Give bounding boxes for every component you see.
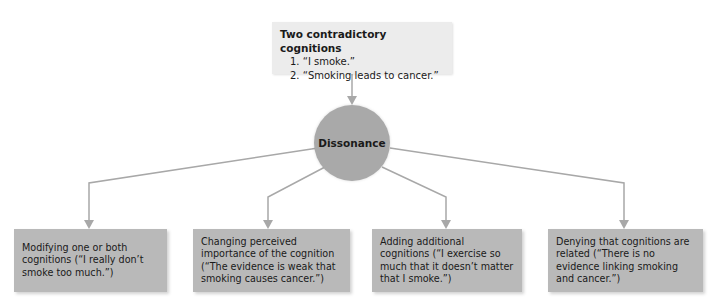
outcome-box-deny: Denying that cognitions are related (“Th… <box>548 229 703 292</box>
dissonance-node: Dissonance <box>314 105 390 181</box>
top-box-title: Two contradictory cognitions <box>280 27 444 55</box>
outcome-text: Modifying one or both cognitions (“I rea… <box>22 242 159 280</box>
dissonance-label: Dissonance <box>318 137 385 149</box>
outcome-box-importance: Changing perceived importance of the cog… <box>193 229 350 292</box>
outcome-text: Denying that cognitions are related (“Th… <box>556 236 695 286</box>
outcome-text: Changing perceived importance of the cog… <box>201 236 342 286</box>
outcome-box-modify: Modifying one or both cognitions (“I rea… <box>14 229 167 292</box>
outcome-box-add: Adding additional cognitions (“I exercis… <box>372 229 522 292</box>
cognition-item-2: 2. “Smoking leads to cancer.” <box>280 69 444 83</box>
cognition-item-1: 1. “I smoke.” <box>280 55 444 69</box>
outcome-text: Adding additional cognitions (“I exercis… <box>380 236 514 286</box>
contradictory-cognitions-box: Two contradictory cognitions 1. “I smoke… <box>272 22 452 74</box>
